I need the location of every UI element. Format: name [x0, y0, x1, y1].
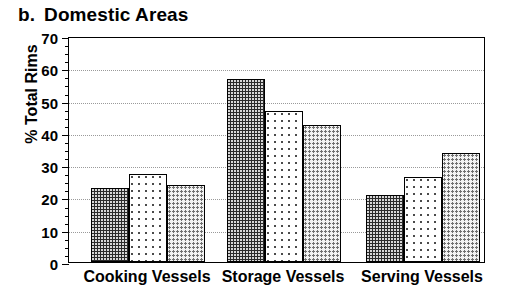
- bar: [167, 185, 205, 262]
- y-axis-title: % Total Rims: [23, 0, 41, 189]
- y-tick-major: [62, 264, 69, 265]
- chart-title: b.Domestic Areas: [18, 4, 188, 26]
- y-tick-label: 10: [41, 223, 58, 240]
- y-tick-label: 30: [41, 159, 58, 176]
- bar-group-container: [69, 38, 484, 262]
- y-tick-label: 40: [41, 126, 58, 143]
- y-tick-label: 70: [41, 30, 58, 47]
- bar: [303, 125, 341, 262]
- x-axis-label: Cooking Vessels: [83, 268, 210, 286]
- y-tick-label: 50: [41, 94, 58, 111]
- y-tick-label: 0: [50, 256, 58, 273]
- chart-figure: b.Domestic Areas % Total Rims 0102030405…: [0, 0, 513, 308]
- y-tick-major: [62, 199, 69, 200]
- plot-area: 010203040506070: [68, 37, 485, 263]
- y-tick-label: 20: [41, 191, 58, 208]
- bar: [366, 195, 404, 262]
- bar: [404, 177, 442, 262]
- bar: [129, 174, 167, 262]
- bar: [91, 188, 129, 262]
- y-tick-major: [62, 232, 69, 233]
- x-axis-label: Serving Vessels: [361, 268, 483, 286]
- y-tick-label: 60: [41, 62, 58, 79]
- y-tick-major: [62, 167, 69, 168]
- y-tick-major: [62, 135, 69, 136]
- bar: [227, 79, 265, 262]
- y-tick-major: [62, 70, 69, 71]
- bar: [265, 111, 303, 262]
- y-tick-major: [62, 38, 69, 39]
- panel-title: Domestic Areas: [44, 4, 188, 25]
- y-tick-major: [62, 103, 69, 104]
- x-axis-label: Storage Vessels: [222, 268, 345, 286]
- bar: [442, 153, 480, 262]
